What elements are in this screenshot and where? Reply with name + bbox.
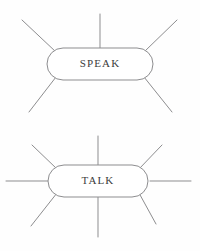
talk-node-label: TALK	[82, 174, 115, 186]
talk-bottom-left-spoke	[31, 193, 57, 226]
talk-bottom-right-spoke	[139, 193, 156, 224]
word-web-diagram: SPEAK TALK	[0, 0, 200, 251]
speak-bottom-left-spoke	[29, 77, 56, 112]
talk-top-left-spoke	[32, 145, 57, 169]
diagram-canvas: SPEAK TALK	[0, 0, 200, 251]
speak-bottom-right-spoke	[144, 77, 172, 112]
speak-top-left-spoke	[22, 20, 56, 52]
node-group-speak[interactable]: SPEAK	[22, 14, 177, 112]
speak-top-right-spoke	[144, 20, 177, 52]
node-group-talk[interactable]: TALK	[6, 136, 191, 237]
talk-top-right-spoke	[139, 145, 162, 169]
speak-node-label: SPEAK	[80, 57, 120, 69]
